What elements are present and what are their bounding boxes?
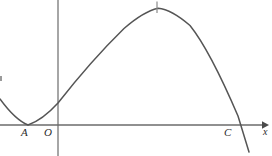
math-figure-canvas: A O C x xyxy=(0,0,272,156)
x-axis-label: x xyxy=(263,127,267,137)
origin-label: O xyxy=(44,127,52,138)
point-c-label: C xyxy=(224,127,231,138)
left-edge-mark xyxy=(0,76,2,81)
point-a-label: A xyxy=(21,127,28,138)
cubic-curve xyxy=(0,8,249,152)
